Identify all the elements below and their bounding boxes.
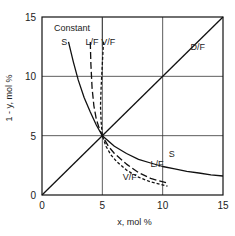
x-tick-label: 0 bbox=[39, 200, 45, 211]
y-tick-label: 10 bbox=[25, 71, 37, 82]
annotation-label: V/F bbox=[101, 37, 116, 47]
annotation-label: D/F bbox=[190, 42, 205, 52]
x-tick-label: 15 bbox=[217, 200, 229, 211]
annotation-label: S bbox=[169, 149, 175, 159]
y-tick-label: 0 bbox=[30, 190, 36, 201]
x-axis-label: x, mol % bbox=[117, 217, 152, 227]
y-tick-label: 5 bbox=[30, 131, 36, 142]
annotation-label: L/F bbox=[151, 159, 165, 169]
y-tick-label: 15 bbox=[25, 12, 37, 23]
x-tick-label: 5 bbox=[100, 200, 106, 211]
series-s-line bbox=[69, 42, 224, 176]
annotation-label: S bbox=[61, 37, 67, 47]
chart: 051015051015 ConstantSL/FV/FD/FSL/FV/F x… bbox=[0, 0, 235, 236]
annotation-label: Constant bbox=[54, 23, 91, 33]
annotations: ConstantSL/FV/FD/FSL/FV/F bbox=[54, 17, 205, 182]
annotation-label: L/F bbox=[85, 37, 99, 47]
annotation-label: V/F bbox=[123, 172, 138, 182]
x-tick-label: 10 bbox=[157, 200, 169, 211]
y-axis-label: 1 - y, mol % bbox=[4, 75, 14, 122]
